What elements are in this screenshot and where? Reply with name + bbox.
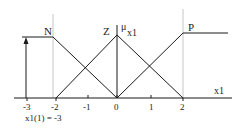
tick-label-neg3: -3 [23, 102, 31, 112]
tick-label-neg1: -1 [83, 102, 91, 112]
arrow-up-icon [24, 37, 29, 44]
mu-label: μ [121, 21, 126, 32]
set-n-curve [22, 37, 117, 98]
x-axis-label: x1 [214, 85, 224, 96]
set-n-label: N [44, 25, 52, 37]
set-z-curve [56, 35, 183, 98]
tick-label-0: 0 [114, 102, 119, 112]
set-z-label: Z [103, 25, 110, 37]
membership-diagram: N Z P μ x1 x1 -3 -2 -1 0 1 2 x1(1) = -3 [0, 0, 237, 128]
tick-label-1: 1 [149, 102, 154, 112]
tick-label-2: 2 [180, 102, 185, 112]
mu-subscript: x1 [127, 27, 137, 38]
input-annotation: x1(1) = -3 [25, 113, 62, 123]
set-p-label: P [188, 21, 194, 33]
tick-label-neg2: -2 [51, 102, 59, 112]
